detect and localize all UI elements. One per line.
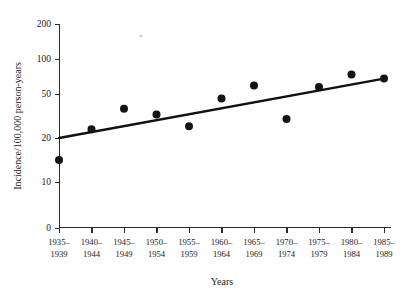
- x-tick-label-line: 1960–: [211, 237, 233, 247]
- x-tick-label-line: 1974: [278, 249, 296, 259]
- x-tick-label: 1955–1959: [178, 237, 200, 259]
- data-point: [88, 125, 96, 133]
- incidence-trend-scatter-chart: 0102050100200 Incidence/100,000 person-y…: [0, 0, 408, 294]
- x-tick-label-line: 1980–: [341, 237, 363, 247]
- data-point: [348, 70, 356, 78]
- chart-figure: 0102050100200 Incidence/100,000 person-y…: [0, 0, 408, 294]
- x-tick-label: 1950–1954: [146, 237, 168, 259]
- x-tick-label-line: 1984: [343, 249, 361, 259]
- x-tick-label: 1940–1944: [81, 237, 103, 259]
- x-tick-label-line: 1940–: [81, 237, 103, 247]
- x-tick-label-line: 1979: [310, 249, 327, 259]
- x-tick-label-line: 1944: [83, 249, 101, 259]
- x-tick-label-line: 1935–: [48, 237, 70, 247]
- x-tick-label-line: 1975–: [308, 237, 330, 247]
- data-point: [218, 94, 226, 102]
- x-tick-label-line: 1955–: [178, 237, 200, 247]
- y-tick-label: 20: [42, 133, 52, 143]
- x-tick-label-line: 1969: [245, 249, 262, 259]
- x-tick-label: 1975–1979: [308, 237, 330, 259]
- x-tick-label: 1965–1969: [243, 237, 265, 259]
- x-tick-label: 1945–1949: [113, 237, 135, 259]
- x-tick-label-line: 1949: [115, 249, 132, 259]
- data-point: [120, 105, 128, 113]
- x-tick-label-line: 1954: [148, 249, 166, 259]
- x-tick-label-line: 1985–: [373, 237, 395, 247]
- x-tick-label: 1935–1939: [48, 237, 70, 259]
- x-tick-label-line: 1965–: [243, 237, 265, 247]
- y-tick-label: 0: [46, 223, 51, 233]
- data-point: [55, 156, 63, 164]
- x-tick-label: 1960–1964: [211, 237, 233, 259]
- y-tick-label: 100: [37, 54, 52, 64]
- x-tick-label-line: 1970–: [276, 237, 298, 247]
- data-point: [250, 82, 258, 90]
- y-axis-title: Incidence/100,000 person-years: [12, 62, 23, 190]
- data-point: [315, 83, 323, 91]
- scan-speck: [139, 34, 142, 37]
- x-tick-label-line: 1939: [50, 249, 67, 259]
- x-tick-label-line: 1964: [213, 249, 231, 259]
- data-point: [380, 75, 388, 83]
- data-point: [185, 122, 193, 130]
- y-tick-label: 50: [42, 89, 52, 99]
- data-point: [283, 115, 291, 123]
- x-tick-label-line: 1945–: [113, 237, 135, 247]
- x-axis-title: Years: [211, 276, 233, 287]
- y-tick-label: 10: [42, 177, 52, 187]
- x-tick-label: 1980–1984: [341, 237, 363, 259]
- x-tick-label-line: 1989: [375, 249, 392, 259]
- y-tick-label: 200: [37, 19, 52, 29]
- x-tick-label: 1985–1989: [373, 237, 395, 259]
- x-tick-label: 1970–1974: [276, 237, 298, 259]
- x-tick-label-line: 1959: [180, 249, 197, 259]
- data-point: [153, 111, 161, 119]
- x-tick-label-line: 1950–: [146, 237, 168, 247]
